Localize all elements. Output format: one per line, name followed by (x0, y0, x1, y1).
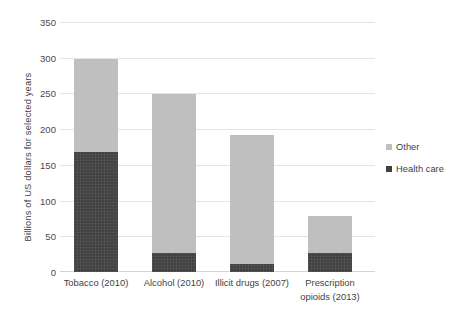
bar-segment-other[interactable] (308, 216, 352, 253)
y-axis-tick-labels: 350 300 250 200 150 100 50 0 (24, 22, 56, 272)
y-tick-label: 300 (40, 52, 56, 63)
bar-segment-health-care[interactable] (308, 253, 352, 272)
legend-swatch-icon (386, 144, 392, 150)
x-tick-label-line: opioids (2013) (284, 290, 376, 304)
y-tick-label: 150 (40, 159, 56, 170)
legend-item-other[interactable]: Other (386, 139, 460, 154)
legend-label: Other (396, 141, 419, 152)
bar-segment-other[interactable] (230, 135, 274, 264)
stacked-bar-chart: Billions of US dollars for selected year… (0, 0, 460, 313)
plot-area (60, 22, 375, 272)
y-tick-label: 350 (40, 17, 56, 28)
legend: Other Health care (386, 139, 460, 183)
y-tick-label: 250 (40, 88, 56, 99)
bar-segment-other[interactable] (74, 59, 118, 153)
x-axis-tick-labels: Tobacco (2010) Alcohol (2010) Illicit dr… (60, 276, 375, 312)
y-tick-label: 50 (45, 231, 56, 242)
legend-item-health-care[interactable]: Health care (386, 161, 460, 176)
bar-segment-health-care[interactable] (152, 253, 196, 272)
gridline-350 (60, 22, 375, 23)
legend-label: Health care (396, 163, 444, 174)
bar-segment-health-care[interactable] (230, 264, 274, 272)
y-tick-label: 100 (40, 195, 56, 206)
bar-segment-other[interactable] (152, 94, 196, 253)
y-tick-label: 200 (40, 124, 56, 135)
bar-segment-health-care[interactable] (74, 152, 118, 272)
x-tick-label-prescription-opioids: Prescription opioids (2013) (284, 276, 376, 303)
x-tick-label-line: Prescription (284, 276, 376, 290)
legend-swatch-icon (386, 166, 392, 172)
